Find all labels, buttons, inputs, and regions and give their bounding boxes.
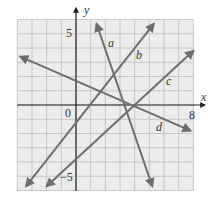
x-axis-label: x — [200, 90, 207, 104]
line-a-label: a — [108, 36, 114, 50]
origin-label: 0 — [65, 106, 71, 120]
coordinate-plane: y x 0 8 5 −5 a b c d — [0, 0, 216, 202]
y-tick-5: 5 — [66, 26, 72, 40]
y-axis-label: y — [83, 3, 90, 17]
line-c-label: c — [166, 74, 172, 88]
line-b-label: b — [136, 48, 142, 62]
line-d-label: d — [156, 120, 163, 134]
x-tick-8: 8 — [189, 108, 195, 122]
y-tick-neg5: −5 — [60, 170, 73, 184]
